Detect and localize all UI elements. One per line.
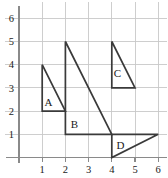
plot-canvas: 1 2 3 4 5 6 1 2 3 4 5 6 A B C xyxy=(0,0,168,178)
triangle-d-label: D xyxy=(117,139,125,151)
y-tick-label-2: 2 xyxy=(9,106,14,117)
x-tick-label-5: 5 xyxy=(132,164,137,175)
gridlines-horizontal xyxy=(5,18,167,134)
y-tick-label-1: 1 xyxy=(9,129,14,140)
triangle-c-label: C xyxy=(114,67,121,79)
x-tick-label-6: 6 xyxy=(156,164,161,175)
y-axis-labels: 1 2 3 4 5 6 xyxy=(9,13,15,140)
y-tick-label-6: 6 xyxy=(9,13,14,24)
x-tick-label-2: 2 xyxy=(63,164,68,175)
y-tick-label-5: 5 xyxy=(9,36,14,47)
y-tick-label-3: 3 xyxy=(9,83,14,94)
x-axis-labels: 1 2 3 4 5 6 xyxy=(40,164,161,175)
x-axis-ticks xyxy=(42,158,158,163)
triangle-a-label: A xyxy=(45,96,53,108)
x-tick-label-3: 3 xyxy=(86,164,91,175)
triangles-grid-figure: 1 2 3 4 5 6 1 2 3 4 5 6 A B C xyxy=(0,0,168,178)
triangle-b-label: B xyxy=(71,118,78,130)
y-tick-label-4: 4 xyxy=(9,59,15,70)
x-tick-label-1: 1 xyxy=(40,164,45,175)
x-tick-label-4: 4 xyxy=(109,164,115,175)
